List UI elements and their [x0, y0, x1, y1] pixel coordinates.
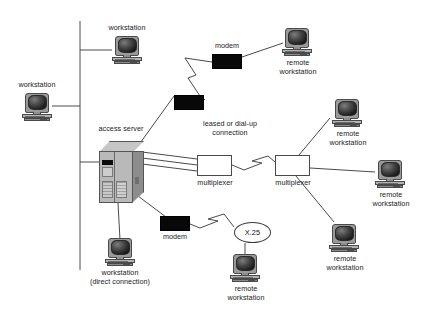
link-server-mux-trunk-2: [142, 158, 197, 165]
link-server-mux-trunk-1: [142, 152, 197, 159]
label-leased-or-dialup: leased or dial-up connection: [187, 120, 273, 137]
monitor-screen: [28, 95, 47, 110]
link-server-ws-direct: [118, 203, 120, 240]
label-remote-workstation-r2: remote workstation: [362, 191, 420, 208]
link-x25-in: [224, 214, 234, 227]
label-remote-workstation-r1: remote workstation: [319, 130, 377, 147]
computer-foot: [107, 263, 133, 267]
workstation-icon-remote-r3[interactable]: [329, 224, 359, 253]
network-diagram-canvas: workstation workstation access server mo…: [0, 0, 433, 324]
server-panel-divider: [114, 152, 115, 202]
x25-cloud-icon[interactable]: X.25: [234, 222, 271, 243]
label-workstation-top: workstation: [98, 24, 156, 33]
link-server-mux-trunk-3: [142, 164, 197, 171]
link-mux-ws-remote-r2: [310, 168, 375, 172]
link-mux-lightning: [244, 156, 268, 170]
x25-label: X.25: [245, 228, 261, 237]
link-modem-lightning-upper: [185, 58, 200, 96]
label-workstation-direct: workstation (direct connection): [76, 269, 164, 286]
server-vent-grill-left: [102, 181, 113, 198]
workstation-icon-remote-r2[interactable]: [375, 160, 405, 189]
computer-foot: [334, 124, 360, 128]
modem-icon-upper-right[interactable]: [212, 54, 242, 69]
workstation-icon-direct[interactable]: [105, 238, 135, 267]
monitor-screen: [335, 226, 354, 241]
link-modem-to-modem-upper-a: [185, 58, 212, 62]
computer-foot: [331, 249, 357, 253]
label-multiplexer-right: multiplexer: [263, 179, 323, 188]
link-x25-lightning: [200, 214, 224, 228]
monitor-screen: [338, 101, 357, 116]
link-mux-right-in: [268, 156, 275, 162]
modem-icon-upper-left[interactable]: [174, 95, 204, 110]
server-drive-slot: [102, 160, 113, 165]
workstation-icon-remote-x25[interactable]: [230, 254, 260, 283]
computer-foot: [232, 279, 258, 283]
monitor-screen: [288, 30, 307, 45]
monitor-screen: [236, 256, 255, 271]
label-workstation-left: workstation: [8, 81, 66, 90]
label-access-server: access server: [86, 125, 156, 134]
monitor-screen: [381, 162, 400, 177]
link-mux-left-out: [232, 165, 244, 170]
modem-icon-lower[interactable]: [160, 216, 190, 231]
server-side-mark: [135, 177, 139, 184]
computer-foot: [284, 53, 310, 57]
computer-foot: [377, 185, 403, 189]
computer-foot: [24, 118, 50, 122]
label-remote-workstation-x25: remote workstation: [217, 285, 275, 302]
workstation-icon-top[interactable]: [112, 36, 142, 65]
label-modem-lower: modem: [146, 233, 204, 242]
server-drive-bay: [102, 167, 113, 177]
server-vent-grill-right: [116, 181, 127, 198]
computer-foot: [114, 61, 140, 65]
workstation-icon-left[interactable]: [22, 93, 52, 122]
label-modem-upper: modem: [198, 42, 256, 51]
label-multiplexer-left: multiplexer: [185, 179, 245, 188]
multiplexer-icon-left[interactable]: [197, 155, 232, 176]
multiplexer-icon-right[interactable]: [275, 155, 310, 176]
monitor-screen: [118, 38, 137, 53]
label-remote-workstation-top: remote workstation: [269, 59, 327, 76]
label-remote-workstation-r3: remote workstation: [316, 255, 374, 272]
monitor-screen: [111, 240, 130, 255]
link-modem-lower-out: [190, 224, 200, 228]
workstation-icon-remote-r1[interactable]: [332, 99, 362, 128]
workstation-icon-remote-top[interactable]: [282, 28, 312, 57]
access-server-icon[interactable]: [99, 141, 144, 203]
link-server-modem-upper: [138, 96, 174, 146]
